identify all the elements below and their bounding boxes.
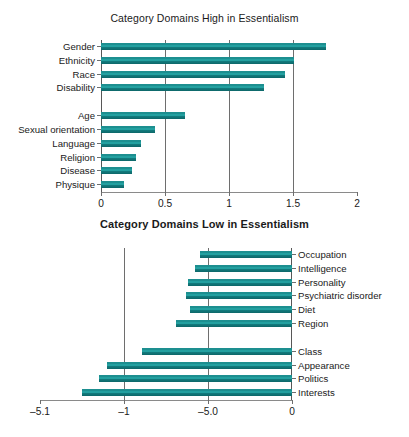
bar <box>101 71 285 78</box>
bar-row: Politics <box>40 372 292 386</box>
x-tick-label: –1 <box>118 406 129 417</box>
category-label: Language <box>52 137 95 151</box>
category-tick <box>292 268 296 269</box>
bar-row: Intelligence <box>40 262 292 276</box>
category-tick <box>292 351 296 352</box>
x-tick-label: 1 <box>226 198 232 209</box>
category-label: Religion <box>60 151 95 165</box>
bar-row: Diet <box>40 303 292 317</box>
x-tick-label: 1.5 <box>286 198 300 209</box>
bar-row: Race <box>101 68 357 82</box>
bar <box>142 348 292 355</box>
x-tick-labels-high: 00.511.52 <box>101 192 357 214</box>
bar <box>101 167 132 174</box>
chart-title-low: Category Domains Low in Essentialism <box>0 212 409 230</box>
x-axis-tick <box>101 192 102 196</box>
bar-row-spacer <box>40 331 292 345</box>
bar <box>101 112 185 119</box>
bar-row: Ethnicity <box>101 54 357 68</box>
chart-title-high: Category Domains High in Essentialism <box>0 0 409 24</box>
bar-row: Region <box>40 317 292 331</box>
x-axis-tick <box>357 192 358 196</box>
bar <box>101 154 136 161</box>
bar-row: Appearance <box>40 359 292 373</box>
category-label: Disease <box>60 164 95 178</box>
bar-row: Class <box>40 345 292 359</box>
x-axis-tick <box>40 400 41 404</box>
category-label: Appearance <box>298 359 350 373</box>
bar <box>101 43 326 50</box>
bar <box>101 140 141 147</box>
category-tick <box>292 309 296 310</box>
bar <box>101 126 155 133</box>
category-label: Physique <box>56 178 95 192</box>
bar-row: Language <box>101 137 357 151</box>
category-tick <box>292 282 296 283</box>
bar-row: Age <box>101 109 357 123</box>
x-tick-label: 0.5 <box>158 198 172 209</box>
bar-row: Disease <box>101 164 357 178</box>
bar-row: Psychiatric disorder <box>40 289 292 303</box>
x-axis-tick <box>229 192 230 196</box>
category-tick <box>292 295 296 296</box>
bar-rows-high: GenderEthnicityRaceDisabilityAgeSexual o… <box>101 40 357 192</box>
bar-row: Occupation <box>40 248 292 262</box>
bar-row: Personality <box>40 276 292 290</box>
category-label: Disability <box>57 81 95 95</box>
category-tick <box>292 254 296 255</box>
x-tick-labels-low: –5.1–1–5.00 <box>40 400 292 422</box>
category-label: Race <box>73 68 95 82</box>
bar-row: Sexual orientation <box>101 123 357 137</box>
plot-area-high: GenderEthnicityRaceDisabilityAgeSexual o… <box>101 40 357 192</box>
chart-high-essentialism: Category Domains High in Essentialism Ge… <box>0 0 409 212</box>
category-label: Diet <box>298 303 315 317</box>
x-axis-tick <box>124 400 125 404</box>
x-axis-tick <box>292 400 293 404</box>
bar <box>99 375 292 382</box>
category-tick <box>292 323 296 324</box>
x-tick-label: –5.0 <box>198 406 218 417</box>
bar <box>176 320 292 327</box>
category-label: Personality <box>298 276 345 290</box>
bar <box>107 362 292 369</box>
bar <box>101 84 264 91</box>
category-label: Ethnicity <box>59 54 95 68</box>
bar <box>195 265 292 272</box>
bar-row: Physique <box>101 178 357 192</box>
x-axis-tick <box>293 192 294 196</box>
category-label: Psychiatric disorder <box>298 289 382 303</box>
category-label: Intelligence <box>298 262 347 276</box>
bar <box>200 251 292 258</box>
bar <box>188 279 292 286</box>
category-label: Age <box>78 109 95 123</box>
x-axis-tick <box>165 192 166 196</box>
bar <box>186 292 292 299</box>
bar-row: Gender <box>101 40 357 54</box>
x-tick-label: 0 <box>289 406 295 417</box>
bar-row: Disability <box>101 81 357 95</box>
category-label: Interests <box>298 386 335 400</box>
x-tick-label: –5.1 <box>30 406 50 417</box>
category-label: Gender <box>63 40 95 54</box>
plot-area-low: OccupationIntelligencePersonalityPsychia… <box>40 248 292 400</box>
bar <box>101 181 124 188</box>
bar-rows-low: OccupationIntelligencePersonalityPsychia… <box>40 248 292 400</box>
bar <box>190 306 292 313</box>
category-label: Occupation <box>298 248 347 262</box>
category-label: Politics <box>298 372 328 386</box>
category-tick <box>292 378 296 379</box>
x-tick-label: 0 <box>98 198 104 209</box>
category-label: Sexual orientation <box>18 123 95 137</box>
bar-row-spacer <box>101 95 357 109</box>
category-tick <box>292 365 296 366</box>
category-label: Class <box>298 345 322 359</box>
bar <box>101 57 294 64</box>
category-tick <box>292 392 296 393</box>
bar-row: Interests <box>40 386 292 400</box>
category-label: Region <box>298 317 328 331</box>
x-axis-tick <box>208 400 209 404</box>
bar <box>82 389 292 396</box>
x-tick-label: 2 <box>354 198 360 209</box>
bar-row: Religion <box>101 151 357 165</box>
